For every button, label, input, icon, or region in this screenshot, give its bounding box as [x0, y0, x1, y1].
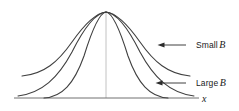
annotation-large-b-symbol: B — [218, 77, 226, 88]
arrow-large-b — [156, 80, 187, 85]
annotation-large-b: LargeB — [196, 78, 226, 88]
figure-container: SmallB LargeB x — [0, 0, 239, 111]
annotation-small-b-symbol: B — [218, 39, 226, 50]
annotation-small-b-text: Small — [196, 40, 218, 50]
arrow-small-b — [158, 42, 187, 47]
annotation-large-b-text: Large — [196, 78, 218, 88]
annotation-small-b: SmallB — [196, 40, 225, 50]
x-axis-label: x — [202, 94, 206, 104]
